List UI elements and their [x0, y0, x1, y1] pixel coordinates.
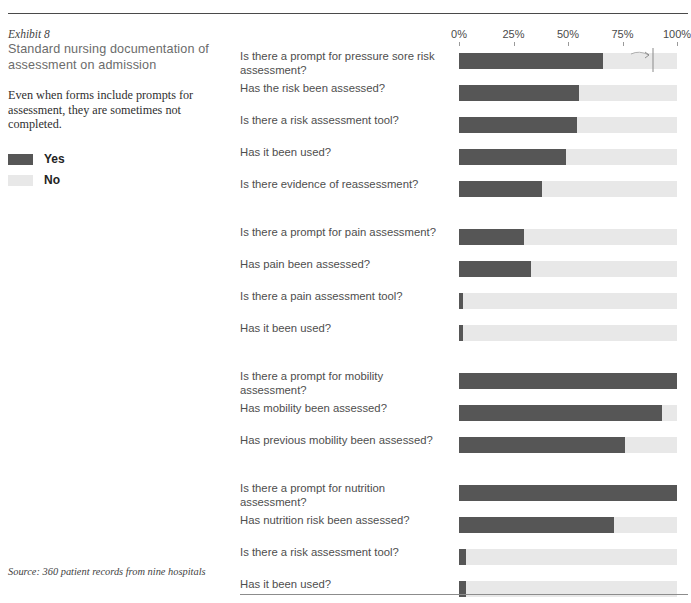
legend-swatch-yes	[8, 154, 33, 165]
bar-track-no	[459, 485, 677, 501]
bar-track-no	[459, 229, 677, 245]
chart-rows: Is there a prompt for pressure sore risk…	[240, 50, 688, 603]
bar-fill-yes	[459, 85, 579, 101]
bar-category-label: Is there a pain assessment tool?	[240, 290, 452, 304]
bar-track-no	[459, 261, 677, 277]
bar-category-label: Is there a prompt for mobility assessmen…	[240, 370, 452, 397]
bar-track-no	[459, 405, 677, 421]
bar-category-label: Has it been used?	[240, 146, 452, 160]
bar-fill-yes	[459, 149, 566, 165]
bar-fill-yes	[459, 405, 662, 421]
legend-swatch-no	[8, 175, 33, 186]
bar-fill-yes	[459, 229, 524, 245]
bar-category-label: Is there a prompt for pressure sore risk…	[240, 50, 452, 77]
bar-fill-yes	[459, 325, 463, 341]
chart-legend: Yes No	[8, 151, 223, 189]
bar-row[interactable]: Is there evidence of reassessment?	[240, 178, 688, 210]
legend-item-yes: Yes	[8, 151, 223, 168]
exhibit-description: Even when forms include prompts for asse…	[8, 88, 223, 132]
exhibit-title: Standard nursing documentation of assess…	[8, 42, 223, 73]
bar-row[interactable]: Is there a pain assessment tool?	[240, 290, 688, 322]
source-note: Source: 360 patient records from nine ho…	[8, 566, 238, 578]
bar-fill-yes	[459, 549, 466, 565]
bar-fill-yes	[459, 261, 531, 277]
bar-track-no	[459, 149, 677, 165]
bar-row[interactable]: Is there a risk assessment tool?	[240, 546, 688, 578]
axis-tick-label: 100%	[663, 28, 691, 40]
bar-row[interactable]: Is there a prompt for pressure sore risk…	[240, 50, 688, 82]
bar-category-label: Is there a risk assessment tool?	[240, 546, 452, 560]
axis-tick-mark	[568, 42, 569, 46]
bar-fill-yes	[459, 373, 677, 389]
bar-group: Is there a prompt for pain assessment?Ha…	[240, 226, 688, 354]
bar-track-no	[459, 293, 677, 309]
bar-group: Is there a prompt for nutrition assessme…	[240, 482, 688, 603]
bar-category-label: Has the risk been assessed?	[240, 82, 452, 96]
axis-tick-label: 50%	[557, 28, 579, 40]
axis-tick-label: 75%	[611, 28, 633, 40]
bar-row[interactable]: Has it been used?	[240, 146, 688, 178]
bar-row[interactable]: Has it been used?	[240, 578, 688, 603]
exhibit-info-panel: Exhibit 8 Standard nursing documentation…	[8, 28, 223, 193]
bar-category-label: Is there a risk assessment tool?	[240, 114, 452, 128]
bar-group: Is there a prompt for mobility assessmen…	[240, 370, 688, 466]
bar-track-no	[459, 325, 677, 341]
bar-group: Is there a prompt for pressure sore risk…	[240, 50, 688, 210]
chart-x-axis: 0%25%50%75%100%	[240, 28, 688, 50]
bar-category-label: Is there a prompt for nutrition assessme…	[240, 482, 452, 509]
bar-category-label: Has mobility been assessed?	[240, 402, 452, 416]
bar-track-no	[459, 85, 677, 101]
axis-tick-label: 0%	[451, 28, 467, 40]
bar-row[interactable]: Is there a prompt for mobility assessmen…	[240, 370, 688, 402]
legend-item-no: No	[8, 172, 223, 189]
bar-category-label: Is there evidence of reassessment?	[240, 178, 452, 192]
bar-chart: 0%25%50%75%100% Is there a prompt for pr…	[240, 28, 688, 588]
bar-row[interactable]: Has the risk been assessed?	[240, 82, 688, 114]
bar-row[interactable]: Has pain been assessed?	[240, 258, 688, 290]
legend-label-no: No	[44, 173, 60, 187]
bar-row[interactable]: Has it been used?	[240, 322, 688, 354]
bar-track-no	[459, 437, 677, 453]
bar-fill-yes	[459, 53, 603, 69]
bar-track-no	[459, 517, 677, 533]
axis-tick-label: 25%	[502, 28, 524, 40]
bar-fill-yes	[459, 485, 677, 501]
bar-category-label: Is there a prompt for pain assessment?	[240, 226, 452, 240]
bar-track-no	[459, 181, 677, 197]
bar-fill-yes	[459, 437, 625, 453]
bar-category-label: Has it been used?	[240, 578, 452, 592]
bar-track-no	[459, 549, 677, 565]
bar-track-no	[459, 117, 677, 133]
bar-fill-yes	[459, 293, 463, 309]
axis-tick-mark	[514, 42, 515, 46]
bar-row[interactable]: Is there a prompt for pain assessment?	[240, 226, 688, 258]
bar-category-label: Has nutrition risk been assessed?	[240, 514, 452, 528]
bottom-divider-rule	[240, 594, 688, 595]
bar-row[interactable]: Has mobility been assessed?	[240, 402, 688, 434]
axis-tick-mark	[623, 42, 624, 46]
bar-category-label: Has it been used?	[240, 322, 452, 336]
bar-fill-yes	[459, 181, 542, 197]
legend-label-yes: Yes	[44, 152, 65, 166]
bar-track-no	[459, 373, 677, 389]
bar-category-label: Has previous mobility been assessed?	[240, 434, 452, 448]
bar-row[interactable]: Has previous mobility been assessed?	[240, 434, 688, 466]
bar-category-label: Has pain been assessed?	[240, 258, 452, 272]
bar-row[interactable]: Is there a risk assessment tool?	[240, 114, 688, 146]
bar-row[interactable]: Is there a prompt for nutrition assessme…	[240, 482, 688, 514]
bar-track-no	[459, 53, 677, 69]
axis-tick-mark	[677, 42, 678, 46]
axis-tick-mark	[459, 42, 460, 46]
bar-fill-yes	[459, 517, 614, 533]
bar-row[interactable]: Has nutrition risk been assessed?	[240, 514, 688, 546]
bar-fill-yes	[459, 117, 577, 133]
exhibit-number: Exhibit 8	[8, 28, 223, 41]
top-divider-rule	[8, 13, 688, 14]
